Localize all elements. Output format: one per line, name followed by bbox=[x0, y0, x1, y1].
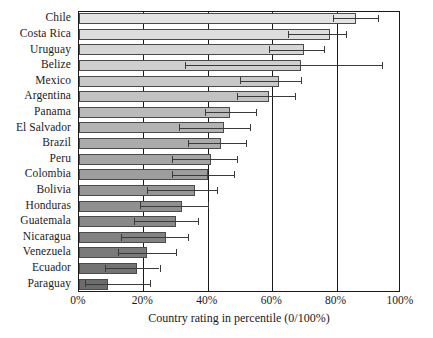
category-label: Uruguay bbox=[30, 44, 71, 56]
error-bar-line bbox=[134, 221, 198, 222]
error-bar-cap-low bbox=[105, 265, 106, 272]
category-label: Chile bbox=[46, 12, 71, 24]
error-bar-cap-low bbox=[134, 218, 135, 225]
error-bar-cap-high bbox=[246, 140, 247, 147]
x-tick-label: 20% bbox=[132, 294, 153, 306]
bar-row bbox=[79, 231, 400, 247]
x-tick-label: 100% bbox=[387, 294, 414, 306]
error-bar-line bbox=[179, 128, 250, 129]
error-bar-cap-high bbox=[208, 202, 209, 209]
error-bar-cap-low bbox=[240, 77, 241, 84]
error-bar-cap-high bbox=[256, 109, 257, 116]
x-axis-ticks: 0%20%40%60%80%100% bbox=[78, 294, 400, 310]
bar-row bbox=[79, 74, 400, 90]
error-bar-cap-high bbox=[301, 77, 302, 84]
x-tick-label: 40% bbox=[196, 294, 217, 306]
error-bar-line bbox=[188, 143, 246, 144]
error-bar-cap-low bbox=[121, 234, 122, 241]
error-bar-line bbox=[205, 112, 257, 113]
error-bar-line bbox=[118, 253, 176, 254]
error-bar-cap-low bbox=[172, 156, 173, 163]
bar-row bbox=[79, 277, 400, 292]
bar-row bbox=[79, 28, 400, 44]
error-bar-cap-low bbox=[237, 93, 238, 100]
category-label: Nicaragua bbox=[23, 231, 71, 243]
category-label: Venezuela bbox=[23, 246, 71, 258]
bar-row bbox=[79, 199, 400, 215]
bar-row bbox=[79, 168, 400, 184]
error-bar-line bbox=[269, 50, 324, 51]
error-bar-cap-low bbox=[118, 249, 119, 256]
error-bar-cap-low bbox=[185, 62, 186, 69]
error-bar-cap-high bbox=[150, 280, 151, 287]
bar-row bbox=[79, 121, 400, 137]
error-bar-line bbox=[333, 18, 378, 19]
error-bar-line bbox=[237, 96, 295, 97]
category-label: Ecuador bbox=[32, 262, 71, 274]
error-bar-cap-low bbox=[147, 187, 148, 194]
error-bar-line bbox=[185, 65, 381, 66]
category-label: Guatemala bbox=[20, 215, 71, 227]
error-bar-cap-high bbox=[188, 234, 189, 241]
error-bar-cap-high bbox=[378, 15, 379, 22]
bar bbox=[79, 13, 356, 24]
error-bar-cap-high bbox=[217, 187, 218, 194]
category-label: Bolivia bbox=[36, 184, 71, 196]
bar-row bbox=[79, 153, 400, 169]
error-bar-cap-low bbox=[205, 109, 206, 116]
error-bar-cap-high bbox=[234, 171, 235, 178]
category-label: Peru bbox=[50, 153, 71, 165]
bar-row bbox=[79, 12, 400, 28]
error-bar-line bbox=[140, 206, 208, 207]
error-bar-cap-low bbox=[269, 46, 270, 53]
error-bar-cap-high bbox=[346, 31, 347, 38]
category-label: Argentina bbox=[24, 90, 71, 102]
error-bar-cap-low bbox=[188, 140, 189, 147]
bar-row bbox=[79, 90, 400, 106]
error-bar-line bbox=[288, 34, 346, 35]
category-label: Belize bbox=[41, 59, 71, 71]
category-label: Panama bbox=[34, 106, 71, 118]
bar-row bbox=[79, 184, 400, 200]
error-bar-cap-high bbox=[160, 265, 161, 272]
x-tick-label: 60% bbox=[261, 294, 282, 306]
bar-row bbox=[79, 246, 400, 262]
category-label: Brazil bbox=[42, 137, 71, 149]
error-bar-cap-high bbox=[198, 218, 199, 225]
x-tick-label: 0% bbox=[70, 294, 85, 306]
category-label: Honduras bbox=[25, 200, 71, 212]
bar-row bbox=[79, 262, 400, 278]
error-bar-cap-high bbox=[324, 46, 325, 53]
bar-row bbox=[79, 59, 400, 75]
error-bar-cap-high bbox=[176, 249, 177, 256]
error-bar-cap-low bbox=[288, 31, 289, 38]
error-bar-cap-low bbox=[140, 202, 141, 209]
error-bar-line bbox=[172, 159, 236, 160]
error-bar-cap-high bbox=[237, 156, 238, 163]
error-bar-cap-high bbox=[250, 124, 251, 131]
error-bar-cap-high bbox=[295, 93, 296, 100]
x-tick-label: 80% bbox=[325, 294, 346, 306]
category-label: Costa Rica bbox=[20, 28, 71, 40]
plot-area bbox=[78, 11, 400, 292]
error-bar-line bbox=[105, 268, 160, 269]
error-bar-line bbox=[121, 237, 189, 238]
bar-row bbox=[79, 106, 400, 122]
category-label: Colombia bbox=[25, 168, 71, 180]
category-label: Mexico bbox=[35, 75, 71, 87]
error-bar-line bbox=[240, 81, 301, 82]
bar-chart: ChileCosta RicaUruguayBelizeMexicoArgent… bbox=[0, 0, 433, 338]
bar-row bbox=[79, 137, 400, 153]
error-bar-line bbox=[147, 190, 218, 191]
category-axis-labels: ChileCosta RicaUruguayBelizeMexicoArgent… bbox=[0, 11, 74, 292]
error-bar-line bbox=[85, 284, 149, 285]
bar-row bbox=[79, 215, 400, 231]
error-bar-cap-low bbox=[179, 124, 180, 131]
error-bar-cap-low bbox=[172, 171, 173, 178]
category-label: Paraguay bbox=[27, 278, 71, 290]
error-bar-cap-high bbox=[382, 62, 383, 69]
error-bar-cap-low bbox=[333, 15, 334, 22]
error-bar-line bbox=[172, 175, 233, 176]
x-axis-title: Country rating in percentile (0/100%) bbox=[78, 311, 400, 326]
category-label: El Salvador bbox=[16, 122, 71, 134]
